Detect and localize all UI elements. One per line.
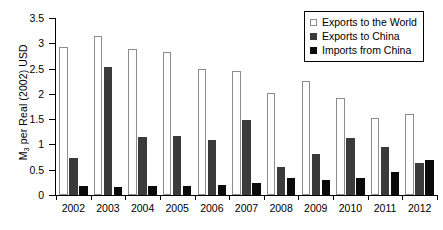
bar-2011-series-0 <box>371 118 380 195</box>
bar-2007-series-2 <box>252 183 261 195</box>
y-tick-label: 3 <box>4 38 44 49</box>
x-tick-mark <box>229 195 230 200</box>
x-tick-mark <box>56 195 57 200</box>
bar-2008-series-1 <box>277 167 286 195</box>
bar-chart: M3 per Real (2002) USD 00.511.522.533.5 … <box>0 0 443 230</box>
bar-2002-series-0 <box>59 47 68 195</box>
bar-group-2007 <box>232 18 261 195</box>
x-axis-line <box>55 195 438 196</box>
x-tick-mark <box>91 195 92 200</box>
bar-2009-series-1 <box>312 154 321 195</box>
y-tick-mark <box>49 195 55 196</box>
legend-label-exports-to-the-world: Exports to the World <box>322 17 417 28</box>
bar-2007-series-1 <box>242 120 251 195</box>
x-tick-label-2012: 2012 <box>390 203 443 214</box>
y-tick-label: 2.5 <box>4 64 44 75</box>
legend-item-imports-from-china: Imports from China <box>310 43 417 57</box>
y-tick-label: 2 <box>4 89 44 100</box>
y-tick-mark <box>49 119 55 120</box>
bar-group-2005 <box>163 18 192 195</box>
bar-2004-series-1 <box>138 137 147 195</box>
y-tick-mark <box>49 170 55 171</box>
x-tick-mark <box>160 195 161 200</box>
x-tick-mark <box>264 195 265 200</box>
bar-2010-series-0 <box>336 98 345 195</box>
bar-group-2004 <box>128 18 157 195</box>
x-tick-mark <box>125 195 126 200</box>
y-tick-label: 3.5 <box>4 13 44 24</box>
bar-2003-series-1 <box>104 67 113 195</box>
y-tick-mark <box>49 69 55 70</box>
bar-2003-series-0 <box>94 36 103 195</box>
bar-2002-series-2 <box>79 186 88 195</box>
bar-2012-series-1 <box>415 163 424 195</box>
bar-group-2006 <box>198 18 227 195</box>
y-tick-label: 0.5 <box>4 165 44 176</box>
bar-2006-series-1 <box>208 140 217 195</box>
x-tick-mark <box>437 195 438 200</box>
x-tick-mark <box>402 195 403 200</box>
bar-2005-series-1 <box>173 136 182 195</box>
x-tick-mark <box>195 195 196 200</box>
legend-swatch-icon-exports-to-china <box>310 33 317 40</box>
bar-2009-series-2 <box>322 180 331 195</box>
y-tick-label: 1 <box>4 139 44 150</box>
legend-swatch-icon-imports-from-china <box>310 47 317 54</box>
bar-2006-series-2 <box>218 185 227 195</box>
bar-2007-series-0 <box>232 71 241 195</box>
y-tick-label: 0 <box>4 190 44 201</box>
bar-group-2008 <box>267 18 296 195</box>
x-tick-mark <box>368 195 369 200</box>
legend-label-exports-to-china: Exports to China <box>322 31 400 42</box>
y-tick-mark <box>49 43 55 44</box>
bar-2010-series-1 <box>346 138 355 195</box>
bar-group-2003 <box>94 18 123 195</box>
bar-2004-series-2 <box>148 186 157 195</box>
legend-item-exports-to-china: Exports to China <box>310 29 417 43</box>
legend-label-imports-from-china: Imports from China <box>322 45 411 56</box>
bar-2010-series-2 <box>356 178 365 195</box>
x-tick-mark <box>333 195 334 200</box>
legend-swatch-icon-exports-to-the-world <box>310 19 317 26</box>
y-tick-mark <box>49 144 55 145</box>
bar-2005-series-2 <box>183 186 192 195</box>
bar-2011-series-1 <box>381 147 390 195</box>
y-tick-mark <box>49 94 55 95</box>
chart-legend: Exports to the World Exports to China Im… <box>304 11 424 62</box>
bar-group-2002 <box>59 18 88 195</box>
y-axis-title-pre: M <box>17 151 29 160</box>
bar-2012-series-0 <box>405 114 414 195</box>
bar-2011-series-2 <box>391 172 400 195</box>
legend-item-exports-to-the-world: Exports to the World <box>310 15 417 29</box>
bar-2008-series-0 <box>267 93 276 195</box>
x-tick-mark <box>298 195 299 200</box>
bar-2012-series-2 <box>425 160 434 195</box>
y-tick-label: 1.5 <box>4 114 44 125</box>
bar-2004-series-0 <box>128 49 137 195</box>
bar-2003-series-2 <box>114 187 123 195</box>
bar-2008-series-2 <box>287 178 296 195</box>
bar-2002-series-1 <box>69 158 78 195</box>
y-tick-mark <box>49 18 55 19</box>
bar-2005-series-0 <box>163 52 172 195</box>
bar-2009-series-0 <box>302 81 311 195</box>
bar-2006-series-0 <box>198 69 207 195</box>
